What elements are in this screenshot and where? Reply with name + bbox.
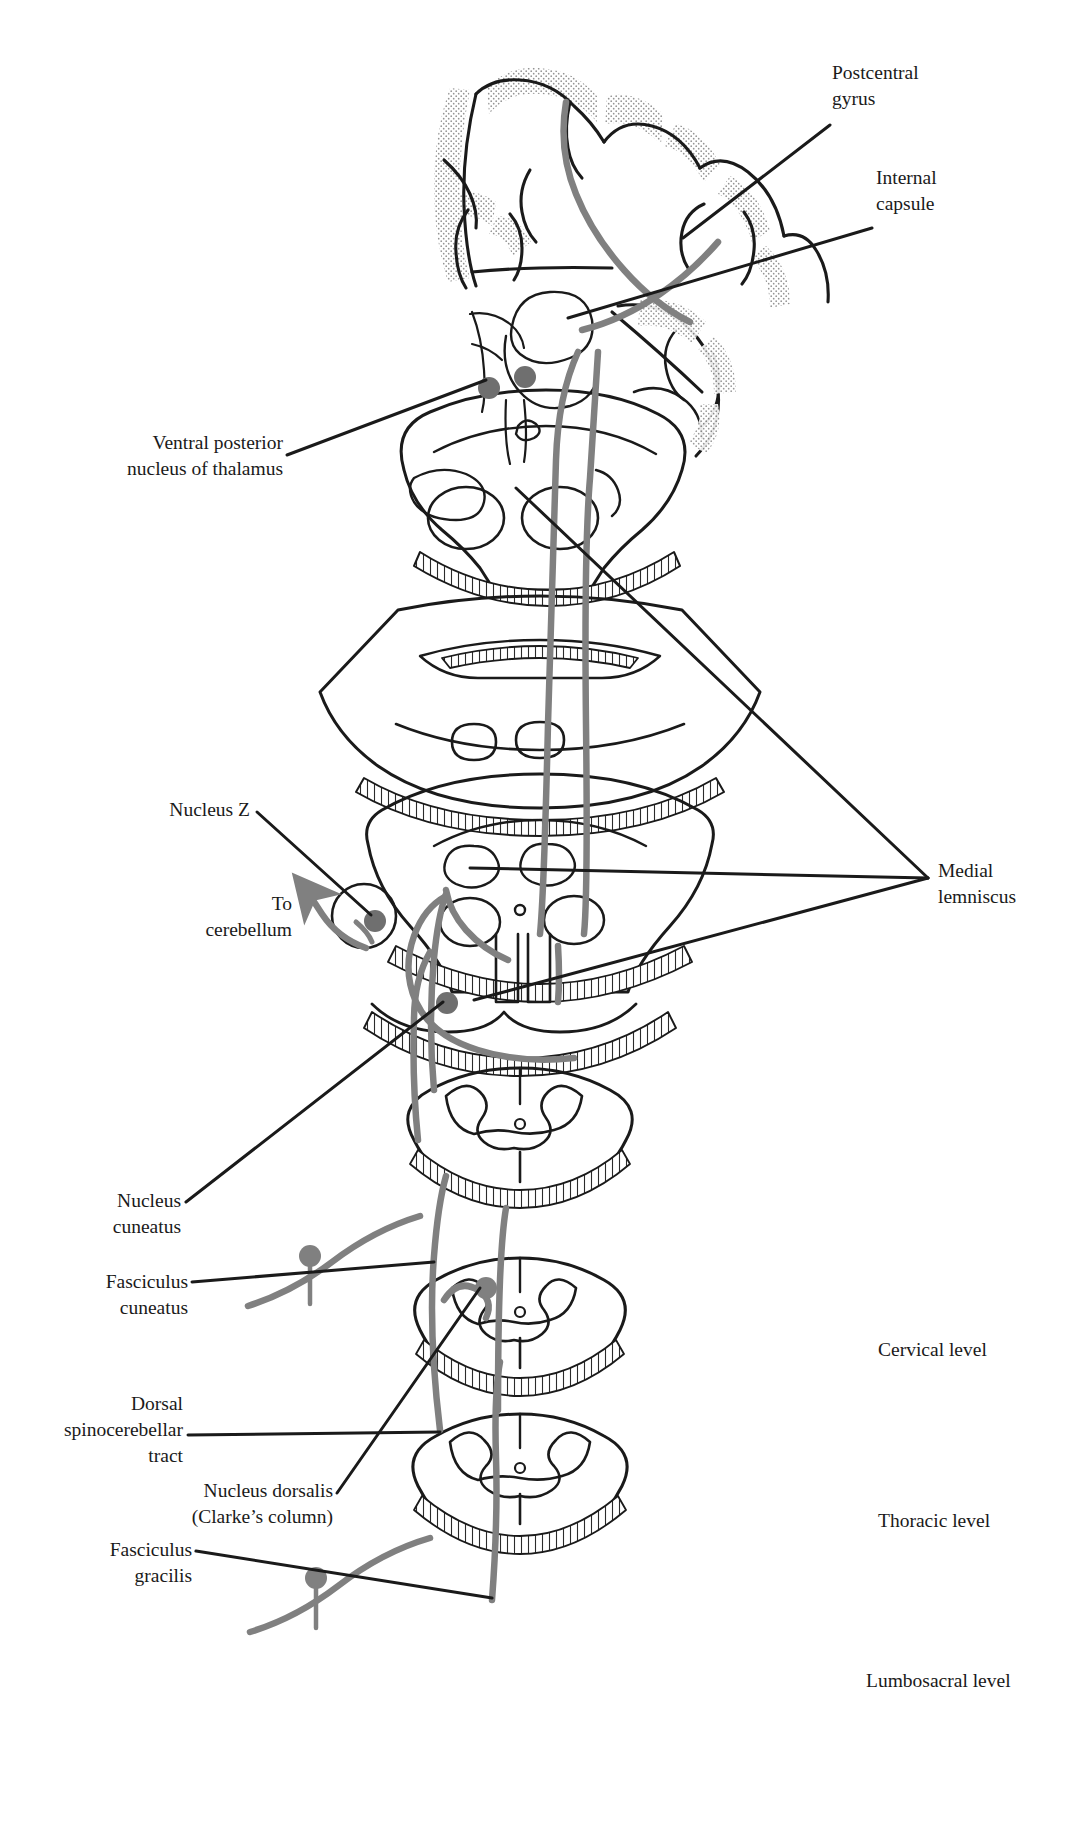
leader-nucleus-dorsalis [337,1288,480,1493]
leader-ventral-posterior [287,380,486,455]
figure-canvas: Postcentral gyrus Internal capsule Ventr… [0,0,1078,1842]
label-postcentral-gyrus: Postcentral gyrus [832,60,919,112]
spinal-cord-lumbosacral [413,1414,627,1554]
dorsal-root-cervical [248,1216,420,1306]
label-medial-lemniscus: Medial lemniscus [938,858,1016,910]
gyrus-4 [784,235,828,302]
cerebral-hemisphere-section [434,68,828,464]
vpl-neuron-right [514,366,536,388]
label-cervical-level: Cervical level [878,1337,987,1363]
leader-nucleus-cuneatus [186,1002,443,1202]
leader-medial-lemniscus-mid [470,868,928,878]
medial-lemniscus-decussation [558,946,559,1002]
pons-outline [320,596,760,808]
leader-fasciculus-gracilis [196,1551,492,1598]
temporal-bottom [634,388,702,438]
label-nucleus-dorsalis: Nucleus dorsalis (Clarke’s column) [0,1478,333,1530]
inferior-olive-right [544,896,604,944]
midbrain-tectum-line [434,426,656,454]
label-fasciculus-gracilis: Fasciculus gracilis [0,1537,192,1589]
fourth-ventricle-inner [442,646,638,668]
label-lumbosacral-level: Lumbosacral level [866,1668,1011,1694]
corpus-callosum-top [472,268,612,273]
midbrain-substantia-nigra [410,470,485,520]
label-nucleus-cuneatus: Nucleus cuneatus [0,1188,181,1240]
label-thoracic-level: Thoracic level [878,1508,990,1534]
medial-lemniscus-left-ml [596,470,620,516]
label-ventral-posterior-nucleus: Ventral posterior nucleus of thalamus [0,430,283,482]
midline-stem-2 [524,400,526,462]
cervical-central-canal [515,1119,525,1129]
midbrain-aqueduct [516,420,540,440]
label-internal-capsule: Internal capsule [876,165,937,217]
label-nucleus-z: Nucleus Z [0,797,250,823]
pons-section [320,596,760,836]
central-canal-medulla [515,905,525,915]
medial-lemniscus-pons-right [516,722,564,758]
medial-lemniscus-ascending-a [540,352,578,934]
spinal-cord-thoracic [415,1258,626,1396]
midline-stem [506,400,511,464]
label-to-cerebellum: To cerebellum [0,891,292,943]
midbrain-section [401,390,685,606]
cervical-gray-matter [446,1086,582,1149]
hemisphere-outline [464,94,476,286]
leader-dorsal-spinocerebellar [188,1432,440,1435]
lumbosacral-central-canal [515,1463,525,1473]
midbrain-bottom-fringe [414,552,680,606]
third-ventricle [472,344,502,360]
pons-mid-line [396,724,684,750]
thoracic-central-canal [515,1307,525,1317]
label-dorsal-spinocerebellar-tract: Dorsal spinocerebellar tract [0,1391,183,1469]
label-fasciculus-cuneatus: Fasciculus cuneatus [0,1269,188,1321]
